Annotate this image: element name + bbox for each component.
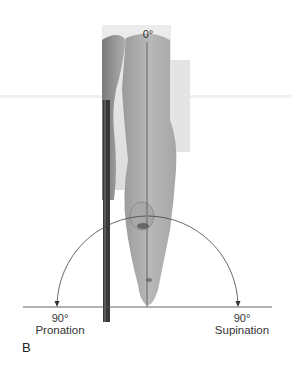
forearm-silhouette <box>122 33 176 305</box>
supination-degree-label: 90° <box>226 312 258 324</box>
pronation-label: Pronation <box>30 324 90 336</box>
zero-degree-label: 0° <box>139 28 157 40</box>
pronation-degree-label: 90° <box>44 312 76 324</box>
panel-letter: B <box>22 340 31 355</box>
pronation-arrowhead-icon <box>55 301 60 307</box>
supination-arrowhead-icon <box>236 301 241 307</box>
supination-label: Supination <box>210 324 274 336</box>
forearm-rotation-diagram: 0° 90° Pronation 90° Supination B <box>0 0 291 379</box>
ruler-highlight <box>104 100 106 322</box>
